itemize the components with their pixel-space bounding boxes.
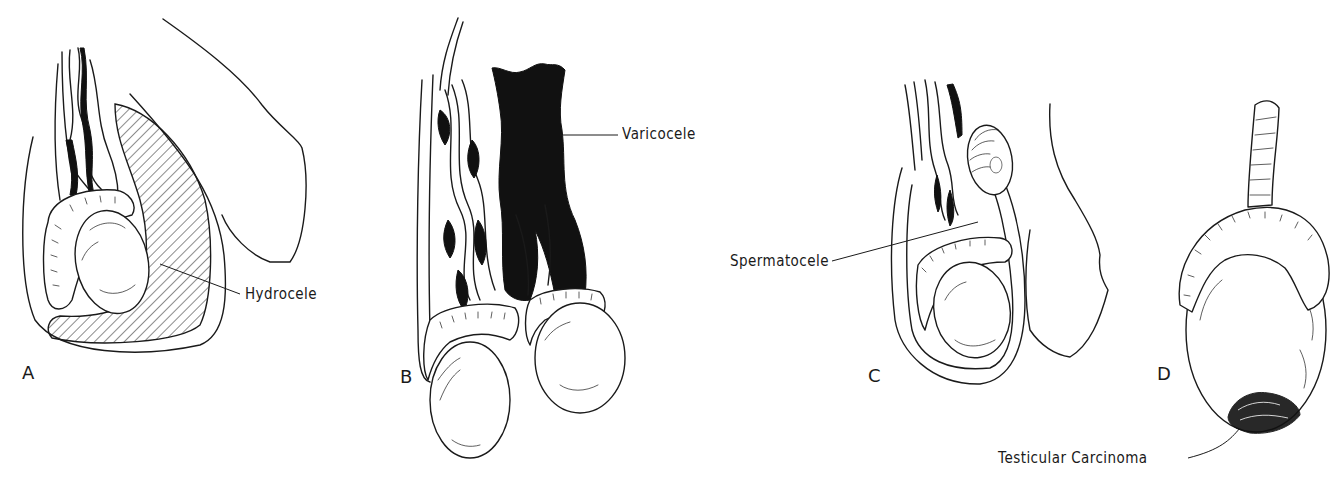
- panel-letter-a: A: [22, 362, 34, 383]
- label-spermatocele: Spermatocele: [730, 252, 829, 270]
- panel-b-drawing: [417, 18, 625, 458]
- label-testicular-carcinoma: Testicular Carcinoma: [998, 449, 1148, 467]
- panel-d-drawing: [1179, 101, 1329, 458]
- panel-letter-c: C: [868, 365, 881, 386]
- panel-letter-b: B: [400, 366, 412, 387]
- scrotal-masses-figure: Hydrocele Varicocele Spermatocele Testic…: [0, 0, 1334, 478]
- label-hydrocele: Hydrocele: [245, 285, 317, 303]
- illustration-canvas: [0, 0, 1334, 478]
- panel-c-drawing: [832, 80, 1108, 384]
- panel-letter-d: D: [1157, 363, 1171, 384]
- label-varicocele: Varicocele: [622, 125, 696, 143]
